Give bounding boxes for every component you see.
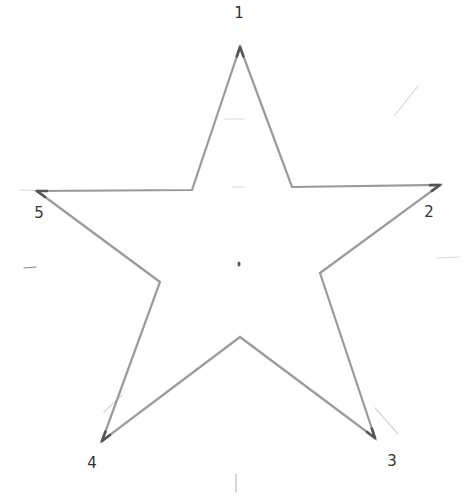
construction-mark [395,86,418,115]
vertex-label-4: 4 [87,456,97,471]
construction-marks [20,86,459,492]
vertex-label-3: 3 [387,454,397,469]
construction-mark [437,257,459,258]
star-diagram [0,0,469,500]
vertex-tip-1 [240,47,243,56]
star-outline [37,47,440,441]
construction-mark [24,267,36,268]
vertex-tips [37,47,440,441]
construction-mark [375,408,398,434]
vertex-label-1: 1 [234,6,244,21]
vertex-label-2: 2 [424,205,434,220]
center-dot [238,262,241,267]
vertex-label-5: 5 [34,206,44,221]
